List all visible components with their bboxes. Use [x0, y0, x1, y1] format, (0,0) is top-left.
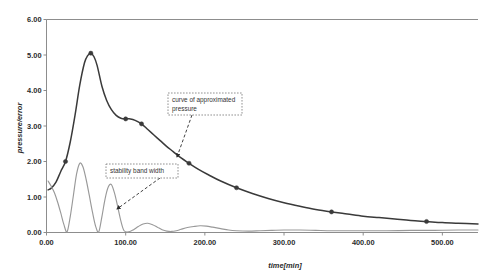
data-point-marker: [63, 159, 67, 163]
y-tick-label: 5.00: [27, 51, 41, 60]
x-tick-label: 100.00: [114, 238, 137, 247]
y-tick-label: 4.00: [27, 86, 41, 95]
data-point-marker: [329, 210, 333, 214]
y-tick-label: 2.00: [27, 157, 41, 166]
y-tick-label: 6.00: [27, 15, 41, 24]
x-tick-label: 0.00: [39, 238, 53, 247]
data-point-marker: [139, 122, 143, 126]
x-tick-label: 200.00: [194, 238, 217, 247]
x-tick-label: 500.00: [431, 238, 454, 247]
annotation-approximated-pressure: curve of approximated pressure: [168, 93, 242, 115]
data-point-marker: [89, 51, 93, 55]
annotation-stability-band-width: stability band width: [106, 164, 178, 178]
x-tick-label: 300.00: [273, 238, 296, 247]
x-tick-label: 400.00: [352, 238, 375, 247]
data-point-marker: [187, 161, 191, 165]
annotation-text-line1: stability band width: [110, 167, 164, 175]
data-point-marker: [234, 186, 238, 190]
y-axis-title: pressure/error: [15, 102, 24, 155]
annotation-text-line1: curve of approximated: [172, 96, 236, 104]
x-axis-title: time[min]: [268, 261, 302, 270]
y-tick-label: 3.00: [27, 122, 41, 131]
y-tick-label: 0.00: [27, 228, 41, 237]
data-point-marker: [124, 117, 128, 121]
chart-canvas: 0.00100.00200.00300.00400.00500.00 0.001…: [0, 0, 485, 273]
data-point-marker: [424, 219, 428, 223]
chart-figure: 0.00100.00200.00300.00400.00500.00 0.001…: [0, 0, 485, 273]
y-tick-label: 1.00: [27, 193, 41, 202]
annotation-text-line2: pressure: [172, 105, 197, 113]
